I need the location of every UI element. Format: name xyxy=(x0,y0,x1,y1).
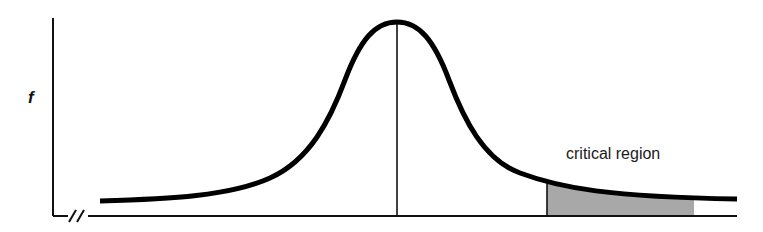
axis-break-icon xyxy=(68,210,88,222)
y-axis-label: f xyxy=(28,88,34,108)
distribution-diagram xyxy=(0,0,763,232)
bell-curve xyxy=(100,22,737,201)
critical-region-label: critical region xyxy=(566,145,660,163)
